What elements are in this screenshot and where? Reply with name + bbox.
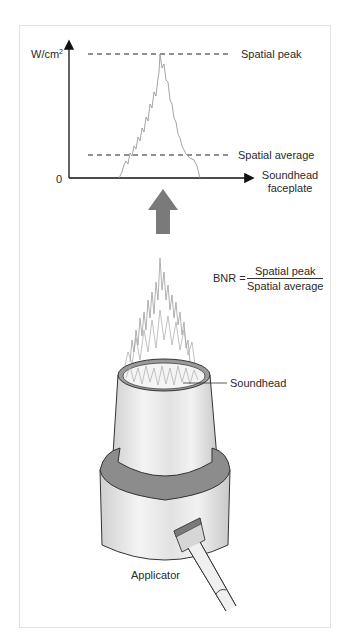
x-axis-label: Soundhead faceplate [258,169,322,195]
y-axis-label: W/cm2 [31,45,63,61]
origin-label: 0 [56,173,62,186]
beam-profile-curve [119,54,200,178]
bnr-fraction: Spatial peak Spatial average [247,265,323,292]
diagram-graphics [0,0,345,643]
up-arrow-icon [148,189,178,234]
bnr-label: BNR = [213,272,246,284]
chart-axes [69,42,252,178]
soundhead-label: Soundhead [230,377,286,390]
applicator-label: Applicator [131,569,180,582]
fraction-numerator: Spatial peak [247,265,323,279]
spatial-average-label: Spatial average [238,149,314,162]
fraction-denominator: Spatial average [247,279,323,292]
spatial-peak-label: Spatial peak [241,48,302,61]
